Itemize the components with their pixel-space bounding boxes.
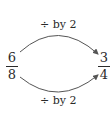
right-fraction: 3 4 [98, 51, 110, 82]
top-arrow [20, 35, 98, 54]
right-numerator: 3 [100, 50, 108, 65]
bottom-arrow [20, 75, 98, 92]
right-denominator: 4 [100, 67, 108, 82]
top-operation-label: ÷ by 2 [40, 18, 76, 31]
bottom-operation-label: ÷ by 2 [40, 94, 76, 107]
left-fraction: 6 8 [6, 51, 18, 82]
left-denominator: 8 [8, 67, 16, 82]
left-numerator: 6 [8, 50, 16, 65]
